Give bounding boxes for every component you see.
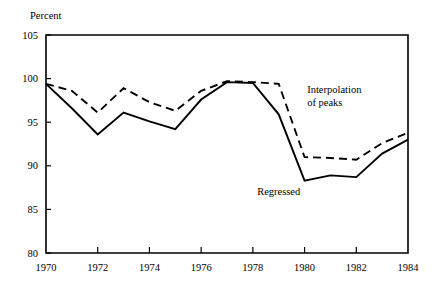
y-tick-label-105: 105 — [22, 30, 38, 41]
series-lines — [46, 81, 408, 180]
x-tick-label-1974: 1974 — [139, 262, 161, 273]
x-tick-label-1984: 1984 — [398, 262, 420, 273]
x-tick-label-1978: 1978 — [242, 262, 263, 273]
annotation-interpolation-of-peaks-line2: of peaks — [307, 97, 342, 108]
line-chart: Percent 80859095100105 19701972197419761… — [0, 0, 439, 298]
annotation-interpolation-of-peaks-line1: Interpolation — [307, 84, 362, 95]
x-axis-ticks: 19701972197419761978198019821984 — [36, 247, 420, 273]
y-tick-label-80: 80 — [28, 248, 39, 259]
annotation-regressed: Regressed — [257, 186, 301, 197]
y-tick-label-90: 90 — [28, 160, 39, 171]
y-axis-title: Percent — [30, 10, 62, 21]
x-tick-label-1982: 1982 — [346, 262, 367, 273]
series-line-regressed — [46, 82, 408, 181]
chart-container: Percent 80859095100105 19701972197419761… — [0, 0, 439, 298]
x-tick-label-1972: 1972 — [87, 262, 108, 273]
y-tick-label-100: 100 — [22, 73, 38, 84]
plot-frame — [46, 35, 408, 253]
y-tick-label-85: 85 — [28, 204, 39, 215]
x-tick-label-1976: 1976 — [191, 262, 212, 273]
x-tick-label-1970: 1970 — [36, 262, 57, 273]
x-tick-label-1980: 1980 — [294, 262, 315, 273]
y-tick-label-95: 95 — [28, 117, 39, 128]
